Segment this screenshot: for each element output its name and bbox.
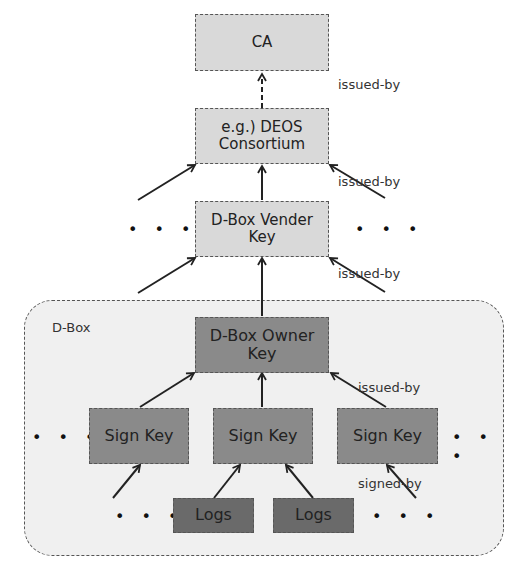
node-consortium-line1: e.g.) DEOS	[219, 119, 305, 136]
node-logs-2: Logs	[273, 498, 354, 533]
node-logs-1: Logs	[173, 498, 254, 533]
node-vender-line1: D-Box Vender	[211, 212, 313, 229]
ellipsis-left-vender: • • •	[128, 220, 196, 239]
node-consortium-line2: Consortium	[219, 136, 305, 153]
edge-label-signed-by: signed-by	[358, 476, 422, 491]
node-sign-key-2: Sign Key	[213, 408, 313, 464]
node-sign-key-2-label: Sign Key	[229, 427, 298, 445]
edge-left-consortium	[138, 165, 195, 200]
edge-left-vender	[138, 258, 195, 293]
node-owner-key: D-Box OwnerKey	[195, 317, 329, 373]
node-sign-key-1: Sign Key	[89, 408, 189, 464]
edge-sign1-owner	[140, 373, 194, 407]
node-owner-line1: D-Box Owner	[210, 327, 315, 345]
node-consortium: e.g.) DEOSConsortium	[195, 108, 329, 164]
node-vender-key: D-Box VenderKey	[195, 201, 329, 257]
node-logs-1-label: Logs	[195, 506, 232, 524]
edges	[0, 0, 520, 571]
node-ca: CA	[195, 14, 329, 71]
node-ca-label: CA	[252, 34, 273, 51]
edge-label-consortium-issued-by: issued-by	[338, 174, 400, 189]
edge-left-sign1	[113, 465, 140, 498]
node-logs-2-label: Logs	[295, 506, 332, 524]
node-sign-key-3: Sign Key	[337, 408, 438, 464]
ellipsis-right-vender: • • •	[355, 220, 423, 239]
edge-label-vender-issued-by: issued-by	[338, 266, 400, 281]
edge-logs2-sign2	[286, 465, 313, 498]
edge-logs1-sign2	[214, 465, 240, 498]
node-sign-key-1-label: Sign Key	[105, 427, 174, 445]
ellipsis-right-sign: • • •	[452, 428, 520, 466]
node-sign-key-3-label: Sign Key	[353, 427, 422, 445]
edge-label-owner-issued-by: issued-by	[358, 380, 420, 395]
node-owner-line2: Key	[210, 345, 315, 363]
edge-label-ca-issued-by: issued-by	[338, 77, 400, 92]
node-vender-line2: Key	[211, 229, 313, 246]
ellipsis-right-logs: • • •	[372, 507, 440, 526]
